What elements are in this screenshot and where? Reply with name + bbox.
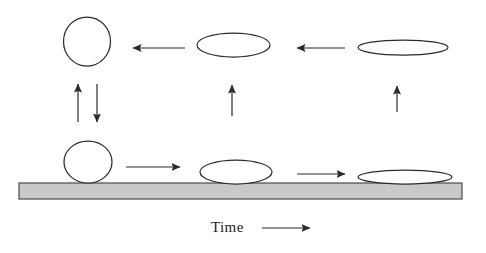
droplet-airborne-sphere xyxy=(64,17,111,66)
droplet-spreading-ellipse-flat xyxy=(358,170,452,184)
time-axis-label: Time xyxy=(211,219,244,236)
droplet-spreading-ellipse-mid xyxy=(200,160,272,184)
solid-surface-bar xyxy=(19,183,462,199)
diagram-canvas xyxy=(0,0,486,253)
droplet-resting-sphere xyxy=(64,141,112,183)
droplet-airborne-ellipse-mid xyxy=(197,33,270,57)
droplet-airborne-ellipse-flat xyxy=(358,40,448,55)
droplet-impact-diagram: Time xyxy=(0,0,486,253)
